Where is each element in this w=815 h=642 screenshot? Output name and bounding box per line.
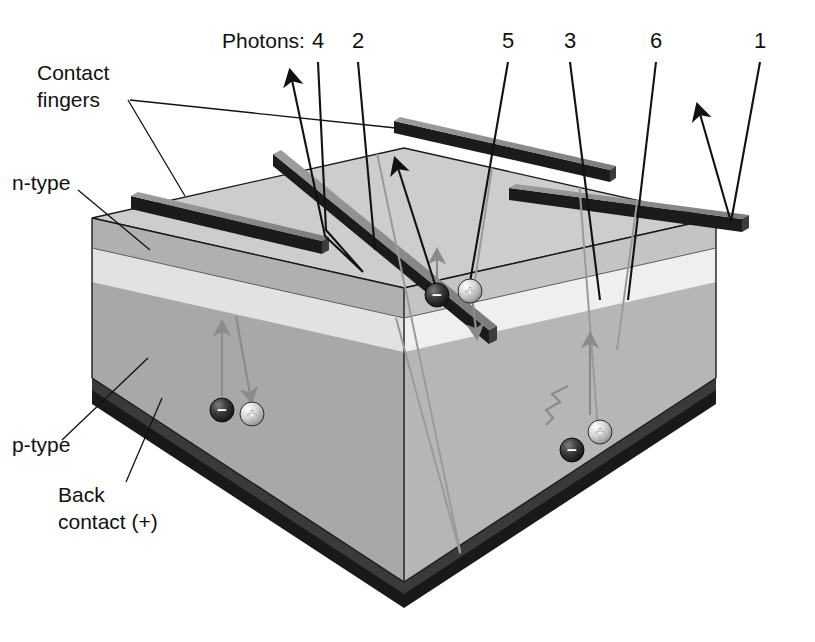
hole-right: + (588, 420, 612, 444)
leader-contact-fingers-a (128, 100, 185, 196)
hole-top-glyph: + (465, 282, 475, 301)
electron-left-glyph: − (217, 401, 227, 420)
hole-right-glyph: + (595, 423, 605, 442)
back-contact-label-line1: Back (58, 483, 105, 506)
solar-cell-diagram-svg: − + − + − + (0, 0, 815, 642)
photon-number-2: 2 (352, 28, 364, 53)
electron-right-glyph: − (567, 441, 577, 460)
hole-left-glyph: + (247, 405, 257, 424)
n-type-label: n-type (12, 171, 70, 194)
hole-left: + (240, 402, 264, 426)
photon-1-ray (700, 62, 760, 222)
electron-top-glyph: − (432, 286, 442, 305)
electron-left: − (210, 398, 234, 422)
solar-cell-figure: − + − + − + (0, 0, 815, 642)
back-contact-label-line2: contact (+) (58, 510, 158, 533)
p-type-label: p-type (12, 433, 70, 456)
leader-contact-fingers-b (130, 100, 396, 128)
photons-prefix-label: Photons: (222, 29, 305, 52)
photon-number-4: 4 (312, 28, 324, 53)
electron-top: − (425, 283, 449, 307)
contact-fingers-label-line2: fingers (37, 88, 100, 111)
contact-fingers-label-line1: Contact (37, 61, 110, 84)
photon-number-6: 6 (650, 28, 662, 53)
photon-number-5: 5 (502, 28, 514, 53)
photon-number-1: 1 (754, 28, 766, 53)
photon-number-3: 3 (564, 28, 576, 53)
hole-top: + (458, 279, 482, 303)
electron-right: − (560, 438, 584, 462)
